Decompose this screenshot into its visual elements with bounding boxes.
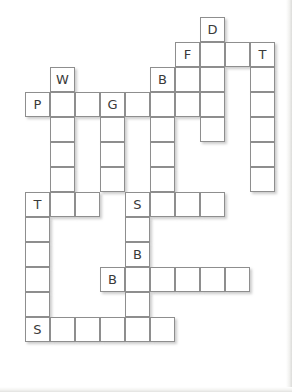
- crossword-cell-empty[interactable]: [200, 267, 225, 292]
- crossword-cell-empty[interactable]: [25, 292, 50, 317]
- crossword-cell-letter[interactable]: F: [175, 42, 200, 67]
- crossword-cell-empty[interactable]: [125, 317, 150, 342]
- crossword-cell-empty[interactable]: [200, 192, 225, 217]
- crossword-cell-empty[interactable]: [175, 67, 200, 92]
- crossword-cell-empty[interactable]: [25, 242, 50, 267]
- crossword-cell-empty[interactable]: [25, 217, 50, 242]
- crossword-cell-letter[interactable]: B: [125, 242, 150, 267]
- crossword-cell-letter[interactable]: P: [25, 92, 50, 117]
- crossword-cell-empty[interactable]: [175, 267, 200, 292]
- crossword-cell-empty[interactable]: [50, 167, 75, 192]
- crossword-cell-empty[interactable]: [75, 192, 100, 217]
- crossword-cell-empty[interactable]: [100, 167, 125, 192]
- crossword-cell-empty[interactable]: [75, 92, 100, 117]
- crossword-cell-empty[interactable]: [50, 142, 75, 167]
- crossword-cell-empty[interactable]: [75, 317, 100, 342]
- crossword-cell-empty[interactable]: [250, 67, 275, 92]
- crossword-page: DFTWBPGTSBBS: [0, 0, 292, 392]
- page-edge-right: [286, 0, 292, 392]
- crossword-cell-empty[interactable]: [125, 217, 150, 242]
- page-edge-bottom: [0, 387, 292, 392]
- crossword-cell-empty[interactable]: [150, 117, 175, 142]
- crossword-cell-empty[interactable]: [250, 142, 275, 167]
- crossword-cell-empty[interactable]: [125, 92, 150, 117]
- crossword-cell-empty[interactable]: [150, 92, 175, 117]
- crossword-cell-empty[interactable]: [25, 267, 50, 292]
- crossword-cell-empty[interactable]: [200, 117, 225, 142]
- crossword-cell-empty[interactable]: [175, 192, 200, 217]
- crossword-cell-empty[interactable]: [150, 192, 175, 217]
- crossword-cell-empty[interactable]: [50, 317, 75, 342]
- crossword-cell-letter[interactable]: T: [250, 42, 275, 67]
- crossword-cell-empty[interactable]: [125, 267, 150, 292]
- crossword-cell-empty[interactable]: [250, 92, 275, 117]
- crossword-cell-empty[interactable]: [100, 317, 125, 342]
- crossword-cell-empty[interactable]: [200, 92, 225, 117]
- crossword-cell-empty[interactable]: [175, 92, 200, 117]
- crossword-grid[interactable]: DFTWBPGTSBBS: [0, 0, 292, 392]
- crossword-cell-letter[interactable]: B: [150, 67, 175, 92]
- crossword-cell-empty[interactable]: [50, 92, 75, 117]
- crossword-cell-empty[interactable]: [250, 117, 275, 142]
- crossword-cell-letter[interactable]: D: [200, 17, 225, 42]
- crossword-cell-empty[interactable]: [150, 317, 175, 342]
- crossword-cell-letter[interactable]: B: [100, 267, 125, 292]
- crossword-cell-letter[interactable]: T: [25, 192, 50, 217]
- crossword-cell-letter[interactable]: S: [25, 317, 50, 342]
- crossword-cell-empty[interactable]: [150, 142, 175, 167]
- crossword-cell-empty[interactable]: [200, 42, 225, 67]
- crossword-cell-empty[interactable]: [50, 117, 75, 142]
- crossword-cell-empty[interactable]: [50, 192, 75, 217]
- crossword-cell-empty[interactable]: [100, 117, 125, 142]
- crossword-cell-empty[interactable]: [225, 267, 250, 292]
- crossword-cell-empty[interactable]: [150, 167, 175, 192]
- crossword-cell-empty[interactable]: [200, 67, 225, 92]
- crossword-cell-letter[interactable]: S: [125, 192, 150, 217]
- crossword-cell-letter[interactable]: W: [50, 67, 75, 92]
- crossword-cell-empty[interactable]: [225, 42, 250, 67]
- crossword-cell-empty[interactable]: [250, 167, 275, 192]
- crossword-cell-empty[interactable]: [150, 267, 175, 292]
- crossword-cell-empty[interactable]: [125, 292, 150, 317]
- crossword-cell-empty[interactable]: [100, 142, 125, 167]
- crossword-cell-letter[interactable]: G: [100, 92, 125, 117]
